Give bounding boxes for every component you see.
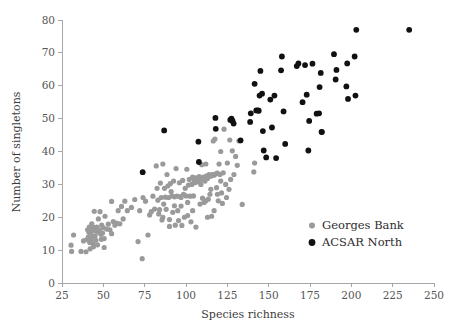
- x-tick-label: 125: [217, 289, 237, 301]
- data-point: [216, 161, 221, 166]
- data-point: [102, 214, 107, 219]
- x-tick-label: 250: [424, 289, 444, 301]
- data-point: [196, 139, 202, 145]
- data-point: [164, 207, 169, 212]
- data-point: [353, 27, 359, 33]
- x-tick-label: 100: [176, 289, 196, 301]
- data-point: [102, 245, 107, 250]
- series-acsar-north: [140, 27, 412, 175]
- data-point: [305, 148, 311, 154]
- data-point: [179, 223, 184, 228]
- scatter-plot-figure: 0102030405060708025507510012515017520022…: [0, 0, 456, 326]
- data-point: [78, 249, 83, 254]
- data-point: [218, 178, 223, 183]
- data-point: [122, 199, 127, 204]
- data-point: [167, 217, 172, 222]
- x-axis-title: Species richness: [201, 308, 295, 321]
- data-point: [92, 209, 97, 214]
- data-point: [282, 141, 288, 147]
- data-point: [121, 216, 126, 221]
- data-point: [223, 182, 228, 187]
- data-point: [193, 225, 198, 230]
- data-point: [129, 205, 134, 210]
- data-point: [214, 185, 219, 190]
- y-tick-label: 0: [48, 277, 55, 289]
- y-tick-label: 80: [42, 14, 55, 26]
- data-point: [273, 155, 279, 161]
- data-point: [171, 178, 176, 183]
- y-tick-label: 30: [42, 178, 55, 190]
- data-point: [215, 192, 220, 197]
- series-georges-bank: [68, 127, 257, 262]
- data-point: [233, 154, 238, 159]
- data-point: [226, 187, 231, 192]
- data-point: [278, 67, 284, 73]
- data-point: [212, 208, 217, 213]
- data-point: [100, 230, 105, 235]
- x-tick-label: 225: [383, 289, 403, 301]
- data-point: [231, 172, 236, 177]
- data-point: [248, 110, 254, 116]
- data-point: [212, 136, 217, 141]
- data-point: [213, 126, 219, 132]
- data-point: [176, 218, 181, 223]
- y-tick-label: 10: [42, 244, 55, 256]
- data-point: [269, 125, 275, 131]
- data-point: [344, 61, 350, 67]
- data-point: [68, 243, 73, 248]
- data-point: [140, 256, 145, 261]
- data-point: [143, 199, 148, 204]
- data-point: [317, 84, 323, 90]
- data-point: [93, 238, 98, 243]
- data-point: [190, 208, 195, 213]
- data-point: [173, 166, 178, 171]
- data-point: [238, 137, 244, 143]
- data-point: [310, 61, 316, 67]
- data-point: [279, 54, 285, 60]
- data-point: [102, 236, 107, 241]
- legend-marker: [309, 239, 316, 246]
- data-point: [109, 199, 114, 204]
- data-point: [160, 161, 165, 166]
- data-point: [240, 202, 245, 207]
- data-point: [203, 198, 208, 203]
- data-point: [353, 93, 359, 99]
- data-point: [178, 203, 183, 208]
- data-point: [228, 177, 233, 182]
- data-point: [304, 92, 310, 98]
- data-point: [281, 108, 287, 114]
- data-point: [150, 194, 155, 199]
- data-point: [140, 169, 146, 175]
- data-point: [172, 203, 177, 208]
- data-point: [300, 99, 306, 105]
- data-point: [69, 249, 74, 254]
- data-point: [96, 216, 101, 221]
- data-point: [227, 137, 232, 142]
- data-point: [331, 51, 337, 57]
- data-point: [221, 127, 226, 132]
- data-point: [247, 119, 253, 125]
- data-point: [333, 77, 339, 83]
- data-point: [117, 221, 122, 226]
- data-point: [170, 210, 175, 215]
- chart-canvas: 0102030405060708025507510012515017520022…: [0, 0, 456, 326]
- data-point: [175, 208, 180, 213]
- y-tick-label: 40: [42, 145, 55, 157]
- legend-label: Georges Bank: [322, 218, 405, 232]
- data-point: [263, 155, 269, 161]
- data-point: [251, 169, 256, 174]
- data-point: [191, 193, 196, 198]
- data-point: [235, 163, 240, 168]
- data-point: [184, 167, 189, 172]
- data-point: [230, 148, 235, 153]
- x-tick-label: 200: [341, 289, 361, 301]
- data-point: [106, 222, 111, 227]
- data-point: [135, 239, 140, 244]
- data-point: [272, 93, 278, 99]
- data-point: [260, 128, 266, 134]
- x-tick-label: 50: [97, 289, 110, 301]
- data-point: [167, 224, 172, 229]
- data-point: [256, 108, 262, 114]
- data-point: [125, 208, 130, 213]
- data-point: [252, 160, 257, 165]
